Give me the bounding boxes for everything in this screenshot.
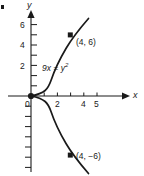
equation-base: 9x = y xyxy=(42,63,65,73)
point-marker-4-6 xyxy=(68,32,73,37)
point-label-4-neg6: (4, −6) xyxy=(76,152,101,161)
y-tick-label-6: 6 xyxy=(20,21,25,30)
x-axis-arrowhead xyxy=(122,92,130,99)
x-tick-label-5: 5 xyxy=(94,100,99,109)
y-axis-label: y xyxy=(27,1,32,10)
y-tick-label-4: 4 xyxy=(20,41,25,50)
point-marker-4-neg6 xyxy=(68,153,73,158)
x-tick-label-4: 4 xyxy=(81,100,86,109)
x-tick-label-0: 0 xyxy=(25,100,30,109)
equation-annotation: 9x = y2 xyxy=(42,62,68,72)
y-tick-label-2: 2 xyxy=(20,62,25,71)
point-label-4-6: (4, 6) xyxy=(76,38,96,47)
x-axis-label: x xyxy=(133,91,138,100)
equation-exponent: 2 xyxy=(65,62,68,68)
x-tick-label-2: 2 xyxy=(55,100,60,109)
y-axis-arrowhead xyxy=(27,10,34,18)
parabola-upper-branch xyxy=(31,19,89,97)
